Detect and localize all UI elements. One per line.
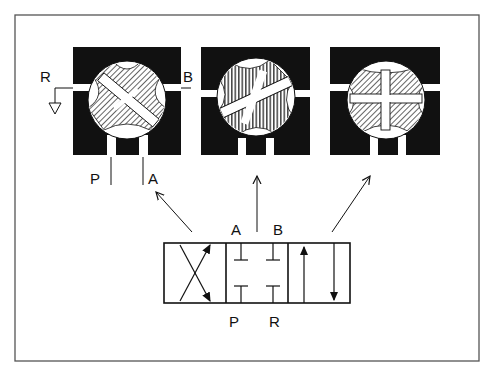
valve-section-closed [201,47,310,155]
symbol-label-r: R [269,313,280,330]
symbol-label-a: A [231,221,241,238]
valve-diagram: R B P A [0,0,492,372]
valve-section-cross [49,47,191,185]
valve-symbol [164,243,350,303]
pointer-arrow-cross [156,192,192,232]
symbol-label-p: P [229,313,239,330]
symbol-label-b: B [273,221,283,238]
port-label-r: R [40,68,51,85]
port-label-a: A [148,170,158,187]
port-label-b: B [183,68,193,85]
valve-section-parallel [330,47,440,155]
pointer-arrow-parallel [332,176,370,232]
port-label-p: P [90,170,100,187]
